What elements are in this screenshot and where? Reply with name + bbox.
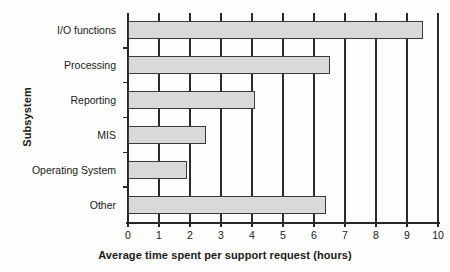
y-tick-label: Other [90, 198, 116, 212]
y-tick-mark [123, 117, 128, 118]
x-tick-mark-9 [406, 222, 407, 227]
x-tick-mark-10 [437, 222, 438, 227]
x-tick-mark-2 [189, 222, 190, 227]
y-tick-mark [123, 186, 128, 187]
plot-area [128, 13, 438, 222]
x-axis-title: Average time spent per support request (… [0, 249, 450, 261]
bar-chart: Subsystem I/O functionsProcessingReporti… [0, 0, 450, 272]
y-tick-mark [123, 82, 128, 83]
x-tick-mark-6 [313, 222, 314, 227]
x-tick-mark-8 [375, 222, 376, 227]
gridline-x-8 [375, 13, 376, 222]
x-tick-label-8: 8 [361, 229, 391, 242]
gridline-x-2 [189, 13, 190, 222]
y-tick-label: Operating System [32, 163, 116, 177]
gridline-x-5 [282, 13, 283, 222]
y-axis-tick-labels: I/O functionsProcessingReportingMISOpera… [0, 13, 122, 222]
y-tick-label: Reporting [70, 93, 116, 107]
gridline-x-9 [406, 13, 407, 222]
gridline-x-3 [220, 13, 221, 222]
x-tick-mark-5 [282, 222, 283, 227]
y-tick-label: MIS [97, 128, 116, 142]
y-tick-mark [123, 152, 128, 153]
bar [128, 56, 330, 74]
x-tick-label-2: 2 [175, 229, 205, 242]
y-tick-label: I/O functions [57, 23, 116, 37]
x-tick-mark-0 [127, 222, 128, 227]
x-tick-label-1: 1 [144, 229, 174, 242]
gridline-x-7 [344, 13, 345, 222]
x-tick-mark-4 [251, 222, 252, 227]
x-tick-label-5: 5 [268, 229, 298, 242]
x-tick-label-7: 7 [330, 229, 360, 242]
x-tick-mark-1 [158, 222, 159, 227]
x-tick-label-0: 0 [113, 229, 143, 242]
y-tick-label: Processing [64, 58, 116, 72]
gridline-x-1 [158, 13, 159, 222]
gridline-x-6 [313, 13, 314, 222]
gridline-x-4 [251, 13, 252, 222]
bar [128, 161, 187, 179]
x-tick-label-10: 10 [423, 229, 450, 242]
gridline-x-10 [437, 13, 438, 222]
x-tick-label-6: 6 [299, 229, 329, 242]
x-tick-mark-3 [220, 222, 221, 227]
y-tick-mark [123, 47, 128, 48]
bar [128, 21, 423, 39]
x-tick-mark-7 [344, 222, 345, 227]
x-tick-label-3: 3 [206, 229, 236, 242]
x-tick-label-4: 4 [237, 229, 267, 242]
bar [128, 196, 326, 214]
x-tick-label-9: 9 [392, 229, 422, 242]
bar [128, 126, 206, 144]
bar [128, 91, 255, 109]
